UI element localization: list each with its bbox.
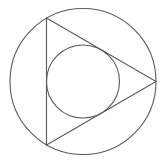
geometry-figure xyxy=(0,0,163,162)
inscribed-circle xyxy=(47,45,120,118)
circumscribed-circle xyxy=(10,9,156,155)
diagram-canvas xyxy=(0,0,163,162)
equilateral-triangle xyxy=(47,18,157,145)
